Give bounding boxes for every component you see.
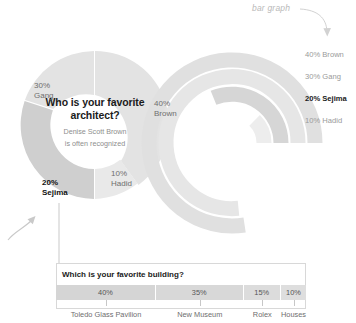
building-stacked-bar: 40% 35% 15% 10% xyxy=(56,285,306,300)
bar-segment-new-museum[interactable]: 35% xyxy=(156,285,244,300)
donut-label-hadid: 10% Hadid xyxy=(111,169,132,190)
bar-tick-rolex xyxy=(262,300,263,306)
donut-label-sejima-name: Sejima xyxy=(42,188,68,198)
donut-center-text: Who is your favorite architect? Denise S… xyxy=(42,96,148,148)
bar-label-new-museum: New Museum xyxy=(156,300,244,323)
building-chart-title: Which is your favorite building? xyxy=(62,270,184,279)
bar-tick-houses xyxy=(294,300,295,306)
bar-segment-toledo-pct: 40% xyxy=(56,288,155,297)
sejima-callout-arrow xyxy=(8,216,36,240)
donut-label-gang-name: Gang xyxy=(34,91,54,101)
legend-item-brown[interactable]: 40% Brown xyxy=(305,44,356,66)
donut-label-gang: 30% Gang xyxy=(34,81,54,102)
bar-label-rolex: Rolex xyxy=(244,300,282,323)
bar-label-new-museum-text: New Museum xyxy=(177,310,222,319)
bar-segment-toledo-glass-pavilion[interactable]: 40% xyxy=(56,285,156,300)
bar-segment-new-museum-pct: 35% xyxy=(156,288,243,297)
legend-item-sejima[interactable]: 20% Sejima xyxy=(305,88,356,110)
bar-graph-annotation-label: bar graph xyxy=(252,3,290,13)
bar-label-rolex-text: Rolex xyxy=(253,310,272,319)
bar-tick-new-museum xyxy=(200,300,201,306)
bar-segment-rolex[interactable]: 15% xyxy=(244,285,282,300)
bar-segment-rolex-pct: 15% xyxy=(244,288,281,297)
radial-bar-chart xyxy=(149,60,315,226)
legend-item-gang[interactable]: 30% Gang xyxy=(305,66,356,88)
radial-chart-legend: 40% Brown 30% Gang 20% Sejima 10% Hadid xyxy=(305,44,356,132)
infographic-canvas: bar graph Who is your favorite architect… xyxy=(0,0,356,323)
bar-label-houses: Houses xyxy=(281,300,306,323)
radial-bar-hadid[interactable] xyxy=(255,120,264,143)
donut-label-hadid-name: Hadid xyxy=(111,179,132,189)
bar-label-toledo-glass-pavilion: Toledo Glass Pavilion xyxy=(56,300,156,323)
donut-center-subtitle-line2: is often recognized xyxy=(42,140,148,148)
donut-center-question: Who is your favorite architect? xyxy=(42,96,148,123)
donut-label-brown-pct: 40% xyxy=(154,99,177,109)
building-bar-axis-labels: Toledo Glass Pavilion New Museum Rolex H… xyxy=(56,300,306,323)
radial-bar-sejima[interactable] xyxy=(214,94,282,143)
bar-tick-toledo xyxy=(106,300,107,306)
donut-label-sejima: 20% Sejima xyxy=(42,178,68,199)
radial-bar-brown[interactable] xyxy=(149,60,315,226)
legend-item-hadid[interactable]: 10% Hadid xyxy=(305,110,356,132)
donut-label-brown-name: Brown xyxy=(154,109,177,119)
bar-label-toledo-text: Toledo Glass Pavilion xyxy=(71,310,142,319)
radial-bar-gang[interactable] xyxy=(166,77,298,209)
donut-center-subtitle-line1: Denise Scott Brown xyxy=(42,128,148,136)
donut-label-gang-pct: 30% xyxy=(34,81,54,91)
donut-label-hadid-pct: 10% xyxy=(111,169,132,179)
bar-segment-houses-pct: 10% xyxy=(281,288,306,297)
bar-graph-annotation-arrow xyxy=(300,9,331,37)
donut-label-brown: 40% Brown xyxy=(154,99,177,120)
bar-segment-houses[interactable]: 10% xyxy=(281,285,306,300)
donut-label-sejima-pct: 20% xyxy=(42,178,68,188)
bar-label-houses-text: Houses xyxy=(281,310,306,319)
